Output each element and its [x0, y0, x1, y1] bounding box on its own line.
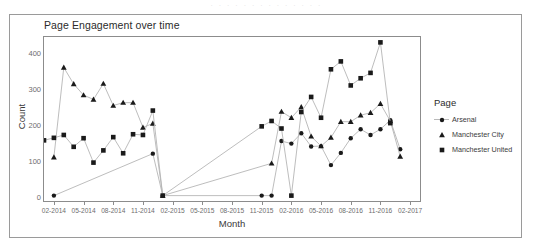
data-point-square — [91, 160, 96, 165]
data-point-triangle — [91, 97, 97, 102]
x-tick-mark — [113, 202, 114, 205]
x-tick-label: 02-2017 — [398, 207, 422, 214]
legend-title: Page — [434, 97, 512, 108]
legend-item-list: ArsenalManchester CityManchester United — [434, 113, 512, 156]
legend-item-manchester-city[interactable]: Manchester City — [434, 128, 512, 141]
chart-canvas — [44, 37, 420, 201]
x-tick-label: 11-2015 — [250, 207, 274, 214]
data-point-circle — [368, 133, 372, 137]
figure-root: · · · · · · · · · · · · · · Page Engagem… — [0, 0, 533, 247]
x-tick-label: 11-2016 — [369, 207, 393, 214]
series-arsenal — [52, 118, 403, 198]
series-line — [44, 42, 390, 195]
legend-item-arsenal[interactable]: Arsenal — [434, 113, 512, 126]
data-point-square — [439, 147, 444, 152]
x-tick-mark — [54, 202, 55, 205]
x-tick-mark — [202, 202, 203, 205]
legend-marker-circle-icon — [437, 115, 446, 124]
data-point-square — [101, 148, 106, 153]
data-point-circle — [339, 151, 343, 155]
x-tick-mark — [173, 202, 174, 205]
y-axis-title: Count — [16, 94, 27, 140]
data-point-circle — [349, 136, 353, 140]
series-line — [54, 68, 400, 196]
x-tick-mark — [84, 202, 85, 205]
data-point-triangle — [279, 109, 285, 114]
x-tick-label: 05-2015 — [190, 207, 214, 214]
legend-marker-triangle-icon — [437, 130, 446, 139]
x-tick-label: 11-2014 — [131, 207, 155, 214]
data-point-square — [160, 193, 165, 198]
data-point-triangle — [308, 134, 314, 139]
data-point-square — [111, 135, 116, 140]
data-point-circle — [52, 193, 56, 197]
data-point-square — [329, 67, 334, 72]
data-point-square — [131, 132, 136, 137]
y-tick-label: 200 — [28, 120, 41, 129]
data-point-circle — [151, 151, 155, 155]
x-tick-label: 02-2014 — [42, 207, 66, 214]
data-point-square — [319, 115, 324, 120]
data-point-square — [269, 119, 274, 124]
data-point-triangle — [378, 101, 384, 106]
data-point-square — [71, 145, 76, 150]
data-point-square — [348, 83, 353, 88]
data-point-circle — [259, 193, 263, 197]
x-tick-label: 08-2014 — [101, 207, 125, 214]
data-point-square — [368, 71, 373, 76]
data-point-triangle — [100, 81, 106, 86]
data-point-square — [151, 108, 156, 113]
series-line — [54, 120, 400, 195]
data-point-square — [339, 59, 344, 64]
plot-panel — [43, 36, 421, 202]
x-tick-mark — [143, 202, 144, 205]
x-tick-mark — [291, 202, 292, 205]
page-title: Page Engagement over time — [44, 19, 180, 31]
data-point-triangle — [328, 135, 334, 140]
x-tick-mark — [321, 202, 322, 205]
data-point-square — [259, 124, 264, 129]
data-point-square — [121, 151, 126, 156]
data-point-square — [299, 110, 304, 115]
legend-key-circle-icon — [434, 114, 449, 125]
data-point-triangle — [71, 81, 77, 86]
x-tick-label: 08-2015 — [220, 207, 244, 214]
y-tick-label: 400 — [28, 49, 41, 58]
legend-key-triangle-icon — [434, 129, 449, 140]
data-point-square — [358, 76, 363, 81]
data-point-circle — [358, 127, 362, 131]
x-axis-ticks: 02-201405-201408-201411-201402-201505-20… — [43, 202, 421, 218]
x-tick-label: 02-2016 — [279, 207, 303, 214]
x-tick-label: 08-2016 — [339, 207, 363, 214]
x-tick-label: 02-2015 — [161, 207, 185, 214]
legend-label: Manchester United — [452, 145, 512, 154]
y-tick-label: 300 — [28, 85, 41, 94]
x-axis-title: Month — [43, 218, 421, 229]
data-point-circle — [299, 131, 303, 135]
data-point-circle — [329, 163, 333, 167]
data-point-square — [279, 126, 284, 131]
data-point-triangle — [439, 132, 445, 137]
data-point-circle — [289, 141, 293, 145]
x-tick-mark — [232, 202, 233, 205]
data-point-circle — [439, 117, 443, 121]
data-point-square — [61, 133, 66, 138]
series-manchester-united — [44, 40, 393, 198]
x-tick-label: 05-2014 — [71, 207, 95, 214]
data-point-square — [141, 133, 146, 138]
data-point-circle — [378, 127, 382, 131]
x-tick-label: 05-2016 — [309, 207, 333, 214]
data-point-triangle — [51, 154, 57, 159]
data-point-circle — [309, 144, 313, 148]
data-point-triangle — [61, 65, 67, 70]
y-tick-label: 100 — [28, 156, 41, 165]
data-point-circle — [269, 193, 273, 197]
data-point-square — [388, 121, 393, 126]
data-point-square — [309, 95, 314, 100]
legend-label: Arsenal — [452, 115, 476, 124]
legend: Page ArsenalManchester CityManchester Un… — [434, 97, 512, 158]
data-point-square — [378, 40, 383, 45]
legend-item-manchester-united[interactable]: Manchester United — [434, 143, 512, 156]
x-tick-mark — [380, 202, 381, 205]
data-point-triangle — [397, 154, 403, 159]
